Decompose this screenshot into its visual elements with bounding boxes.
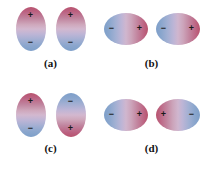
charge-sign-negative: − (66, 38, 76, 47)
charge-sign-positive: + (187, 24, 197, 33)
charge-sign-negative: − (66, 97, 76, 106)
charge-sign-positive: + (66, 124, 76, 133)
dipole-c-2: − + (56, 93, 86, 137)
dipole-pair-c: + − − + (0, 86, 101, 144)
dipole-figure: + − + − (a) − + − + (b) + (0, 0, 202, 179)
charge-sign-negative: − (107, 110, 117, 119)
panel-label-d: (d) (101, 142, 202, 154)
charge-sign-negative: − (26, 38, 36, 47)
charge-sign-negative: − (107, 24, 117, 33)
dipole-b-2: − + (156, 13, 200, 45)
charge-sign-positive: + (159, 110, 169, 119)
dipole-pair-b: − + − + (101, 0, 202, 58)
panel-b: − + − + (b) (101, 0, 202, 89)
panel-a: + − + − (a) (0, 0, 101, 89)
dipole-d-1: − + (104, 99, 148, 131)
charge-sign-positive: + (66, 11, 76, 20)
charge-sign-positive: + (26, 11, 36, 20)
panel-label-a: (a) (0, 57, 101, 69)
dipole-d-2: + − (156, 99, 200, 131)
dipole-pair-a: + − + − (0, 0, 101, 58)
panel-label-c: (c) (0, 142, 101, 154)
dipole-a-2: + − (56, 7, 86, 51)
charge-sign-positive: + (26, 97, 36, 106)
charge-sign-positive: + (135, 110, 145, 119)
dipole-c-1: + − (16, 93, 46, 137)
panel-label-b: (b) (101, 57, 202, 69)
dipole-b-1: − + (104, 13, 148, 45)
charge-sign-negative: − (187, 110, 197, 119)
charge-sign-negative: − (159, 24, 169, 33)
charge-sign-positive: + (135, 24, 145, 33)
panel-d: − + + − (d) (101, 90, 202, 179)
panel-c: + − − + (c) (0, 90, 101, 179)
dipole-a-1: + − (16, 7, 46, 51)
charge-sign-negative: − (26, 124, 36, 133)
dipole-pair-d: − + + − (101, 86, 202, 144)
